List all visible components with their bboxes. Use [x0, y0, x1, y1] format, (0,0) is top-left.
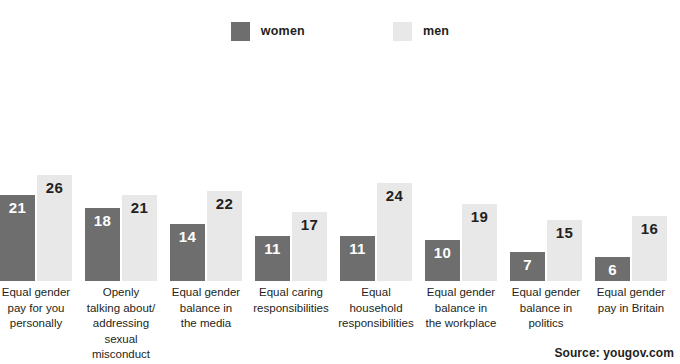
bar-women[interactable]: 10 — [425, 240, 460, 281]
bar-value-label: 10 — [425, 245, 460, 260]
bar-group: 1422 — [170, 0, 242, 281]
category-label-line: balance in — [180, 302, 232, 314]
category-label-line: Equal gender — [172, 286, 240, 298]
bar-women[interactable]: 14 — [170, 224, 205, 281]
bar-chart-plot-area: 212618211422111711241019715616 — [0, 0, 680, 281]
bar-value-label: 6 — [595, 262, 630, 277]
category-label: Equal genderpay in Britain — [589, 285, 674, 316]
category-label-line: responsibilities — [338, 317, 413, 329]
category-label-line: pay in Britain — [598, 302, 664, 314]
bar-value-label: 22 — [207, 196, 242, 211]
bar-men[interactable]: 16 — [632, 216, 667, 281]
bar-men[interactable]: 17 — [292, 212, 327, 281]
category-label-line: addressing — [93, 317, 149, 329]
category-label-line: the workplace — [426, 317, 497, 329]
bar-men[interactable]: 26 — [37, 175, 72, 281]
category-label: Equal genderbalance inthe workplace — [419, 285, 504, 332]
bar-men[interactable]: 22 — [207, 191, 242, 281]
category-label-line: household — [349, 302, 402, 314]
bar-group: 2126 — [0, 0, 72, 281]
bar-group: 1019 — [425, 0, 497, 281]
bar-value-label: 17 — [292, 217, 327, 232]
category-label-line: Equal caring — [259, 286, 323, 298]
bar-men[interactable]: 19 — [462, 204, 497, 281]
bar-men[interactable]: 15 — [547, 220, 582, 281]
bar-value-label: 14 — [170, 229, 205, 244]
category-label-line: balance in — [435, 302, 487, 314]
bar-value-label: 15 — [547, 225, 582, 240]
category-label-line: balance in — [520, 302, 572, 314]
bar-group: 1124 — [340, 0, 412, 281]
source-note: Source: yougov.com — [554, 346, 674, 360]
bar-women[interactable]: 11 — [255, 236, 290, 281]
bar-group: 1117 — [255, 0, 327, 281]
bar-value-label: 7 — [510, 257, 545, 272]
category-label: Openlytalking about/addressingsexualmisc… — [79, 285, 164, 363]
bar-value-label: 21 — [122, 200, 157, 215]
category-label-line: Openly — [103, 286, 139, 298]
bar-group: 1821 — [85, 0, 157, 281]
bar-women[interactable]: 6 — [595, 257, 630, 281]
category-label-line: Equal gender — [597, 286, 665, 298]
category-label-line: Equal gender — [427, 286, 495, 298]
bar-women[interactable]: 18 — [85, 208, 120, 281]
category-label: Equal genderbalance inpolitics — [504, 285, 589, 332]
bar-value-label: 11 — [255, 241, 290, 256]
category-label-line: politics — [528, 317, 563, 329]
category-label-line: talking about/ — [87, 302, 155, 314]
bar-group: 715 — [510, 0, 582, 281]
category-label-line: Equal — [361, 286, 390, 298]
bar-value-label: 18 — [85, 213, 120, 228]
category-label-line: pay for you — [8, 302, 65, 314]
bar-men[interactable]: 24 — [377, 183, 412, 281]
bar-value-label: 21 — [0, 200, 35, 215]
bar-women[interactable]: 21 — [0, 195, 35, 281]
bar-group: 616 — [595, 0, 667, 281]
bar-value-label: 19 — [462, 209, 497, 224]
bar-men[interactable]: 21 — [122, 195, 157, 281]
bar-women[interactable]: 11 — [340, 236, 375, 281]
bar-value-label: 26 — [37, 180, 72, 195]
category-label: Equal genderbalance inthe media — [164, 285, 249, 332]
category-label-line: personally — [10, 317, 62, 329]
category-label-line: misconduct — [92, 348, 150, 360]
category-label-line: responsibilities — [253, 302, 328, 314]
category-label: Equalhouseholdresponsibilities — [334, 285, 419, 332]
category-label-line: Equal gender — [2, 286, 70, 298]
bar-women[interactable]: 7 — [510, 252, 545, 281]
category-label-line: Equal gender — [512, 286, 580, 298]
category-label: Equal caringresponsibilities — [249, 285, 334, 316]
bar-value-label: 16 — [632, 221, 667, 236]
bar-value-label: 24 — [377, 188, 412, 203]
category-label: Equal genderpay for youpersonally — [0, 285, 79, 332]
bar-value-label: 11 — [340, 241, 375, 256]
category-label-line: sexual — [104, 333, 137, 345]
category-label-line: the media — [181, 317, 232, 329]
